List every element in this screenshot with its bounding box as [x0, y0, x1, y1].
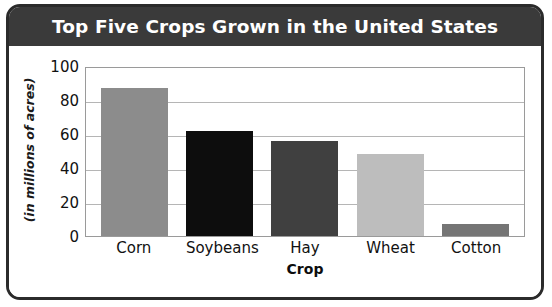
chart-plot-region: (in millions of acres) 020406080100 Corn…: [9, 47, 541, 297]
y-axis-tick: 60: [60, 128, 79, 143]
x-axis-tick-labels: CornSoybeansHayWheatCotton: [85, 239, 525, 257]
bar-cotton: [442, 224, 509, 236]
bar-hay: [271, 141, 338, 236]
y-axis-tick: 100: [50, 60, 79, 75]
x-axis-tick: Wheat: [357, 239, 424, 257]
y-axis-title-text: (in millions of acres): [22, 78, 37, 223]
x-axis-tick: Cotton: [443, 239, 510, 257]
plot-area: [85, 67, 525, 237]
x-axis-tick: Hay: [271, 239, 338, 257]
chart-card: Top Five Crops Grown in the United State…: [6, 4, 544, 300]
chart-title-bar: Top Five Crops Grown in the United State…: [8, 6, 542, 46]
y-axis-tick: 80: [60, 94, 79, 109]
x-axis-tick: Corn: [100, 239, 167, 257]
x-axis-tick: Soybeans: [186, 239, 253, 257]
bar-soybeans: [186, 131, 253, 236]
bar-wheat: [357, 154, 424, 236]
y-axis-tick-labels: 020406080100: [45, 67, 79, 237]
chart-title: Top Five Crops Grown in the United State…: [52, 16, 498, 37]
y-axis-tick: 20: [60, 196, 79, 211]
bar-corn: [101, 88, 168, 236]
bar-series: [86, 68, 524, 236]
y-axis-tick: 40: [60, 162, 79, 177]
y-axis-tick: 0: [69, 230, 79, 245]
y-axis-title: (in millions of acres): [19, 4, 39, 61]
x-axis-title: Crop: [85, 261, 525, 277]
